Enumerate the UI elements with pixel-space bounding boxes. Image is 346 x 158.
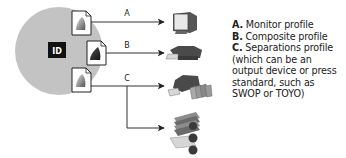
monitor-icon [173,12,197,34]
svg-text:ID: ID [52,47,62,56]
proof-printer-icon [168,75,212,99]
legend-item-b: B. Composite profile [232,31,344,43]
connector-label-a: A [124,9,130,18]
connector-c-branch [127,86,164,128]
desktop-printer-icon [166,46,202,60]
printing-press-icon [170,112,200,155]
color-profile-document-icon [72,68,91,92]
legend: A. Monitor profile B. Composite profile … [232,19,344,100]
color-profile-document-icon [87,41,106,65]
indesign-logo-icon: ID [48,42,66,58]
legend-item-c: C. Separations profile (which can be an … [232,42,344,100]
connector-label-c: C [124,74,130,83]
legend-item-a: A. Monitor profile [232,19,344,31]
color-profile-document-icon [72,11,91,35]
connector-label-b: B [124,41,130,50]
